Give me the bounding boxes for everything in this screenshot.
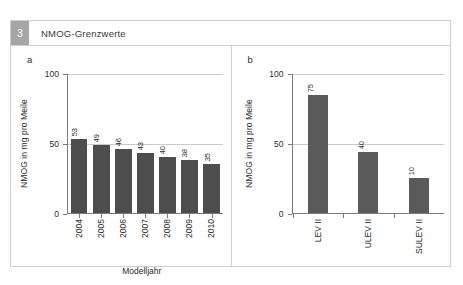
bar-value-label: 75 (307, 84, 315, 92)
y-tick-mark (288, 144, 292, 145)
y-tick-mark (288, 214, 292, 215)
panel-b-bars: 75 40 10 (293, 74, 445, 213)
figure-number-badge: 3 (11, 21, 29, 45)
bar-slot: 40 (156, 74, 178, 213)
bar-value-label: 10 (408, 167, 416, 175)
bar-slot: 43 (134, 74, 156, 213)
bar-value-label: 35 (204, 153, 212, 161)
x-tick-label-text: LEV II (314, 219, 323, 242)
panel-b-y-axis-title: NMOG in mg pro Meile (242, 74, 256, 214)
panel-b-x-ticks (293, 214, 445, 218)
bar (358, 152, 378, 213)
x-tick (178, 214, 200, 218)
bar-value-label: 40 (358, 141, 366, 149)
bar-value-label: 43 (137, 142, 145, 150)
x-tick (343, 214, 394, 218)
panel-b: b NMOG in mg pro Meile 100 50 0 75 (231, 46, 451, 266)
x-tick-label-text: 2008 (163, 219, 172, 238)
x-tick-label: 2010 (200, 219, 222, 263)
panel-a-y-axis-title: NMOG in mg pro Meile (17, 74, 31, 214)
bar-slot: 46 (112, 74, 134, 213)
x-tick (112, 214, 134, 218)
bar-slot: 38 (178, 74, 200, 213)
y-tick-mark (63, 144, 67, 145)
bar-value-label: 40 (159, 146, 167, 154)
x-tick-label: SULEV II (394, 219, 445, 263)
bar (409, 178, 429, 213)
x-tick-label-text: 2005 (97, 219, 106, 238)
panel-a-bars: 53 49 46 43 (68, 74, 223, 213)
figure-caption-bar: 3 NMOG-Grenzwerte (11, 21, 450, 46)
bar (203, 164, 220, 213)
x-tick-label-text: 2009 (185, 219, 194, 238)
x-tick-label-text: ULEV II (364, 219, 373, 248)
panel-a-letter: a (27, 54, 32, 65)
x-tick (394, 214, 445, 218)
y-tick-mark (288, 74, 292, 75)
x-tick (156, 214, 178, 218)
bar-value-label: 46 (115, 138, 123, 146)
bar (308, 95, 328, 213)
bar-value-label: 38 (181, 149, 189, 157)
x-tick-label: LEV II (293, 219, 344, 263)
x-tick-label: 2004 (68, 219, 90, 263)
bar-value-label: 53 (71, 128, 79, 136)
panel-a-x-axis-title: Modelljahr (61, 266, 223, 276)
bar-slot: 53 (68, 74, 90, 213)
x-tick-label-text: 2010 (207, 219, 216, 238)
x-tick (68, 214, 90, 218)
x-tick-label-text: 2004 (75, 219, 84, 238)
panel-b-plot-area: 75 40 10 (292, 74, 445, 214)
bar-slot: 75 (293, 74, 344, 213)
panels-container: a NMOG in mg pro Meile 100 50 0 53 (11, 46, 450, 266)
x-tick-label-text: 2006 (119, 219, 128, 238)
x-tick-label: 2005 (90, 219, 112, 263)
bar-slot: 49 (90, 74, 112, 213)
x-tick-label-text: 2007 (141, 219, 150, 238)
y-tick-mark (63, 214, 67, 215)
bar-slot: 10 (394, 74, 445, 213)
panel-b-x-tick-labels: LEV II ULEV II SULEV II (293, 219, 445, 263)
figure-frame: 3 NMOG-Grenzwerte a NMOG in mg pro Meile… (10, 20, 451, 267)
x-tick (200, 214, 222, 218)
bar (115, 149, 132, 213)
x-tick (90, 214, 112, 218)
x-tick-label: 2009 (178, 219, 200, 263)
y-tick-label: 100 (269, 69, 283, 79)
bar-value-label: 49 (93, 134, 101, 142)
panel-a-plot-area: 53 49 46 43 (67, 74, 223, 214)
x-tick-label: 2007 (134, 219, 156, 263)
x-tick (293, 214, 344, 218)
bar (181, 160, 198, 213)
bar (137, 153, 154, 213)
x-tick-label-text: SULEV II (415, 219, 424, 254)
panel-a-y-tick-labels: 100 50 0 (33, 74, 63, 214)
y-tick-label: 50 (50, 139, 59, 149)
panel-b-y-tick-labels: 100 50 0 (258, 74, 288, 214)
x-tick-label: 2008 (156, 219, 178, 263)
y-tick-label: 50 (274, 139, 283, 149)
y-tick-label: 0 (279, 209, 284, 219)
bar-slot: 40 (343, 74, 394, 213)
y-tick-label: 0 (54, 209, 59, 219)
panel-a-x-tick-labels: 2004 2005 2006 2007 2008 2009 2010 (68, 219, 223, 263)
bar (159, 157, 176, 213)
x-tick (134, 214, 156, 218)
panel-a: a NMOG in mg pro Meile 100 50 0 53 (11, 46, 231, 266)
bar (71, 139, 88, 213)
y-tick-label: 100 (45, 69, 59, 79)
panel-b-letter: b (248, 54, 253, 65)
x-tick-label: ULEV II (343, 219, 394, 263)
panel-a-x-ticks (68, 214, 223, 218)
figure-caption-title: NMOG-Grenzwerte (29, 28, 126, 39)
y-tick-mark (63, 74, 67, 75)
x-tick-label: 2006 (112, 219, 134, 263)
bar-slot: 35 (200, 74, 222, 213)
bar (93, 145, 110, 213)
